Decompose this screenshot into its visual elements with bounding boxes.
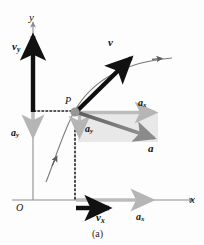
vector-vy-label: vy	[12, 41, 20, 53]
vector-vx-label: vx	[96, 212, 105, 224]
vector-v-label: v	[108, 37, 113, 48]
vector-vx-label-sub: x	[101, 216, 105, 225]
figure-canvas	[0, 0, 204, 245]
figure-caption: (a)	[92, 228, 103, 239]
vector-vy-label-sub: y	[17, 45, 20, 54]
vector-ax-at-p-label-sub: x	[143, 101, 146, 108]
point-p-label: P	[65, 96, 71, 106]
vector-ax-on-axis-label: ax	[136, 212, 144, 223]
origin-label: O	[16, 203, 23, 213]
vector-ay-at-p-label-sub: y	[90, 127, 93, 134]
trajectory-arrow-lower-icon	[52, 158, 56, 166]
point-p-marker	[70, 107, 79, 116]
vector-v-at-p	[76, 58, 131, 112]
vector-ay-at-p-label: ay	[85, 124, 93, 135]
x-axis-label: x	[190, 194, 195, 205]
vector-ax-on-axis-label-sub: x	[141, 215, 144, 222]
physics-figure-projectile-acceleration: y x O P v vy vx a ax ay ay ax (a)	[0, 0, 204, 245]
vector-ay-on-axis-label: ay	[11, 128, 19, 139]
vector-a-label: a	[148, 143, 154, 154]
vector-ax-at-p-label: ax	[138, 98, 146, 109]
y-axis-label: y	[29, 12, 34, 23]
vector-ay-on-axis-label-sub: y	[16, 131, 19, 138]
